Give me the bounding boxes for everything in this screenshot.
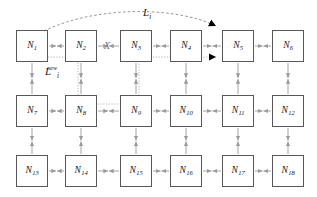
node-label: N9: [131, 106, 141, 116]
node-label: N13: [26, 166, 39, 176]
node-label: N16: [180, 166, 193, 176]
node-n7[interactable]: N7: [16, 95, 48, 127]
node-label-index: 10: [186, 109, 193, 116]
node-label-index: 18: [288, 169, 295, 176]
node-n18[interactable]: N18: [272, 155, 304, 187]
node-n4[interactable]: N4: [170, 30, 202, 62]
node-label-base: N: [283, 40, 289, 50]
network-topology-figure: Li Lnewi X N1N2N3N4N5N6N7N8N9N10N11N12N1…: [0, 0, 317, 197]
node-label-index: 9: [138, 109, 141, 116]
node-label: N10: [180, 106, 193, 116]
node-label-base: N: [26, 165, 32, 175]
node-n5[interactable]: N5: [222, 30, 254, 62]
node-n6[interactable]: N6: [272, 30, 304, 62]
node-label-index: 15: [136, 169, 143, 176]
node-n3[interactable]: N3: [120, 30, 152, 62]
node-label: N7: [27, 106, 37, 116]
node-label-index: 13: [32, 169, 39, 176]
node-label: N5: [233, 41, 243, 51]
node-n13[interactable]: N13: [16, 155, 48, 187]
node-label: N2: [76, 41, 86, 51]
node-label-index: 2: [83, 44, 86, 51]
node-label: N12: [282, 106, 295, 116]
node-label: N14: [75, 166, 88, 176]
node-n14[interactable]: N14: [65, 155, 97, 187]
node-n11[interactable]: N11: [222, 95, 254, 127]
original-path-label: Li: [143, 7, 151, 18]
node-label-base: N: [282, 165, 288, 175]
node-label-base: N: [181, 40, 187, 50]
node-label-index: 5: [240, 44, 243, 51]
node-label-index: 12: [288, 109, 295, 116]
node-label-base: N: [131, 105, 137, 115]
node-label-index: 6: [290, 44, 293, 51]
node-label-index: 8: [83, 109, 86, 116]
node-label-base: N: [180, 105, 186, 115]
node-label: N1: [27, 41, 37, 51]
node-label: N4: [181, 41, 191, 51]
node-label-index: 4: [188, 44, 191, 51]
node-n1[interactable]: N1: [16, 30, 48, 62]
new-path-label: Lnewi: [45, 66, 63, 77]
node-label-index: 3: [138, 44, 141, 51]
node-label-index: 7: [34, 109, 37, 116]
node-n16[interactable]: N16: [170, 155, 202, 187]
node-label-index: 11: [238, 109, 244, 116]
node-label-base: N: [76, 105, 82, 115]
node-label: N11: [232, 106, 244, 116]
node-label-index: 1: [34, 44, 37, 51]
node-label-base: N: [282, 105, 288, 115]
node-label-base: N: [75, 165, 81, 175]
node-n17[interactable]: N17: [222, 155, 254, 187]
node-label: N17: [232, 166, 245, 176]
node-label-base: N: [180, 165, 186, 175]
node-label-index: 17: [238, 169, 245, 176]
node-label-index: 14: [81, 169, 88, 176]
node-label: N15: [130, 166, 143, 176]
node-label-base: N: [233, 40, 239, 50]
node-label: N6: [283, 41, 293, 51]
node-label-index: 16: [186, 169, 193, 176]
node-n9[interactable]: N9: [120, 95, 152, 127]
node-label-base: N: [130, 165, 136, 175]
node-label-base: N: [131, 40, 137, 50]
node-n12[interactable]: N12: [272, 95, 304, 127]
node-label: N8: [76, 106, 86, 116]
node-label-base: N: [232, 165, 238, 175]
node-label: N3: [131, 41, 141, 51]
node-n10[interactable]: N10: [170, 95, 202, 127]
node-label: N18: [282, 166, 295, 176]
node-n15[interactable]: N15: [120, 155, 152, 187]
node-n8[interactable]: N8: [65, 95, 97, 127]
original-path-arc: [44, 12, 216, 31]
node-label-base: N: [27, 40, 33, 50]
node-label-base: N: [27, 105, 33, 115]
node-label-base: N: [76, 40, 82, 50]
broken-link-marker: X: [104, 41, 110, 51]
node-n2[interactable]: N2: [65, 30, 97, 62]
